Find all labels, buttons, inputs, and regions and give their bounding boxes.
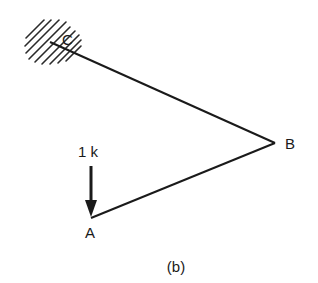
member-cb (50, 42, 275, 143)
load-label: 1 k (78, 143, 99, 160)
figure-caption: (b) (167, 258, 185, 275)
down-arrow-icon (85, 166, 97, 217)
node-label-b: B (285, 135, 295, 152)
node-label-a: A (85, 224, 95, 241)
node-label-c: C (62, 31, 73, 48)
frame-diagram: C B A 1 k (b) (0, 0, 318, 283)
member-ba (91, 143, 275, 218)
